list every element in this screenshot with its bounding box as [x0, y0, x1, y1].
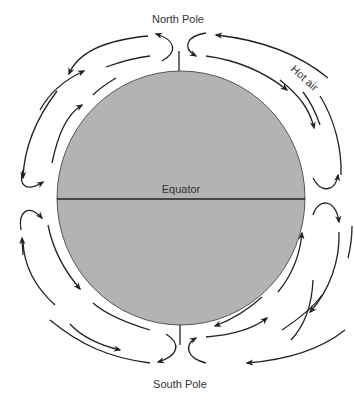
north-pole-label: North Pole — [152, 13, 204, 25]
south-pole-label: South Pole — [153, 378, 207, 390]
earth-globe — [57, 71, 305, 325]
equator-label: Equator — [162, 183, 201, 195]
hot-air-label: Hot air — [289, 63, 321, 94]
atmospheric-circulation-diagram: Equator North Pole South Pole Hot air — [0, 0, 354, 400]
